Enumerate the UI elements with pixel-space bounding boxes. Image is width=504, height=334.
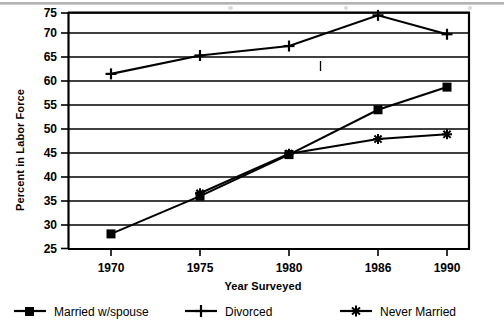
asterisk-marker — [373, 134, 383, 144]
gridlines — [68, 13, 470, 225]
x-tick-label: 1970 — [98, 261, 125, 275]
x-axis-tick-labels: 1970 1975 1980 1986 1990 — [98, 261, 461, 275]
asterisk-marker — [195, 188, 205, 198]
x-tick-label: 1990 — [434, 261, 461, 275]
legend-label: Married w/spouse — [54, 305, 149, 319]
filled-square-marker — [443, 83, 452, 92]
plus-icon — [195, 305, 207, 317]
x-axis-title: Year Surveyed — [224, 280, 301, 292]
scan-speck — [344, 6, 348, 10]
chart-legend: Married w/spouse Divorced Never Marr — [14, 305, 456, 319]
y-tick-label: 75 — [44, 6, 58, 20]
y-tick-label: 70 — [44, 26, 58, 40]
y-tick-label: 45 — [44, 146, 58, 160]
asterisk-marker — [442, 129, 452, 139]
series-line — [111, 15, 447, 74]
y-tick-label: 40 — [44, 170, 58, 184]
y-tick-label: 65 — [44, 50, 58, 64]
series-line — [111, 87, 447, 234]
asterisk-marker — [284, 149, 294, 159]
y-axis-title: Percent in Labor Force — [14, 89, 26, 211]
asterisk-icon — [350, 306, 362, 317]
y-tick-label: 55 — [44, 98, 58, 112]
legend-item-divorced: Divorced — [185, 305, 272, 319]
legend-item-never-married: Never Married — [340, 305, 456, 319]
series-married-w-spouse — [107, 83, 452, 239]
scan-speck — [468, 6, 472, 10]
line-chart-svg: Percent in Labor Force 25 30 35 40 45 50… — [0, 0, 504, 334]
plus-marker — [106, 68, 117, 79]
y-tick-label: 35 — [44, 194, 58, 208]
x-tick-label: 1980 — [276, 261, 303, 275]
x-tick-label: 1986 — [365, 261, 392, 275]
x-tick-label: 1975 — [187, 261, 214, 275]
chart-figure: Percent in Labor Force 25 30 35 40 45 50… — [0, 0, 504, 334]
filled-square-marker — [374, 105, 383, 114]
series-divorced — [106, 10, 453, 80]
y-axis-tick-labels: 25 30 35 40 45 50 55 60 65 70 75 — [44, 6, 58, 256]
series-line — [200, 134, 447, 193]
legend-label: Never Married — [380, 305, 456, 319]
plus-marker — [442, 29, 453, 40]
plus-marker — [195, 50, 206, 61]
legend-label: Divorced — [225, 305, 272, 319]
scan-speck — [228, 6, 233, 10]
series-never-married — [195, 129, 452, 198]
y-tick-label: 25 — [44, 242, 58, 256]
filled-square-icon — [25, 307, 34, 316]
legend-item-married-w-spouse: Married w/spouse — [14, 305, 149, 319]
y-tick-label: 30 — [44, 218, 58, 232]
y-axis-tick-marks — [61, 13, 68, 249]
plus-marker — [284, 41, 295, 52]
y-tick-label: 50 — [44, 122, 58, 136]
filled-square-marker — [107, 229, 116, 238]
data-series-layer — [106, 10, 453, 239]
y-tick-label: 60 — [44, 74, 58, 88]
